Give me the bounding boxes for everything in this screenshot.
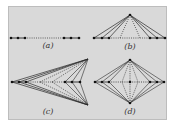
vertex-point xyxy=(93,37,96,40)
edge xyxy=(26,59,88,82)
vertex-point xyxy=(24,37,27,40)
vertex-point xyxy=(78,37,81,40)
dotted-edge xyxy=(40,59,88,82)
dotted-edge xyxy=(40,82,88,105)
panel-label: (c) xyxy=(43,107,54,116)
edge xyxy=(130,15,157,38)
vertex-point xyxy=(156,37,159,40)
vertex-point xyxy=(108,81,111,84)
vertex-point xyxy=(163,81,166,84)
vertex-point xyxy=(79,81,82,84)
vertex-point xyxy=(63,37,66,40)
panel-label: (a) xyxy=(42,41,53,50)
diagram-canvas: (a) (b) (c) (d) xyxy=(0,0,175,127)
edge xyxy=(26,82,88,105)
panel-d: (d) xyxy=(94,59,166,116)
vertex-point xyxy=(149,81,152,84)
vertex-point xyxy=(101,37,104,40)
edge xyxy=(19,82,88,105)
panel-a: (a) xyxy=(10,37,81,50)
vertex-point xyxy=(149,37,152,40)
edge xyxy=(130,15,165,38)
vertex-point xyxy=(129,14,132,17)
panel-label: (d) xyxy=(124,107,135,116)
vertex-point xyxy=(17,37,20,40)
vertex-point xyxy=(108,37,111,40)
panel-c: (c) xyxy=(11,59,88,116)
vertex-point xyxy=(164,37,167,40)
vertex-point xyxy=(18,81,21,84)
edge xyxy=(102,15,130,38)
vertex-point xyxy=(156,81,159,84)
edge xyxy=(80,59,88,82)
panel-b: (b) xyxy=(93,14,167,51)
vertex-point xyxy=(94,81,97,84)
vertex-point xyxy=(10,37,13,40)
figure: (a) (b) (c) (d) xyxy=(0,0,175,127)
vertex-point xyxy=(11,81,14,84)
vertex-point xyxy=(101,81,104,84)
edge xyxy=(19,59,88,82)
vertex-point xyxy=(71,81,74,84)
vertex-point xyxy=(129,102,132,105)
vertex-point xyxy=(129,59,132,62)
panel-label: (b) xyxy=(124,42,135,51)
edge xyxy=(80,82,88,105)
vertex-point xyxy=(129,81,132,84)
vertex-point xyxy=(64,81,67,84)
vertex-point xyxy=(70,37,73,40)
vertex-point xyxy=(25,81,28,84)
